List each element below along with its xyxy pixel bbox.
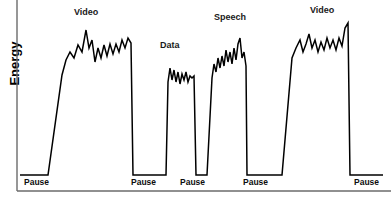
chart-plot-area — [0, 0, 392, 204]
energy-vs-time-chart: Energy VideoDataSpeechVideo PausePausePa… — [0, 0, 392, 204]
pause-label: Pause — [243, 177, 268, 187]
pause-label: Pause — [24, 177, 49, 187]
pause-label: Pause — [131, 177, 156, 187]
pause-label: Pause — [354, 177, 379, 187]
burst-label: Data — [160, 40, 180, 50]
pause-label: Pause — [180, 177, 205, 187]
burst-label: Speech — [214, 12, 246, 22]
energy-trace-line — [20, 23, 383, 175]
burst-label: Video — [74, 7, 98, 17]
burst-label: Video — [310, 5, 334, 15]
